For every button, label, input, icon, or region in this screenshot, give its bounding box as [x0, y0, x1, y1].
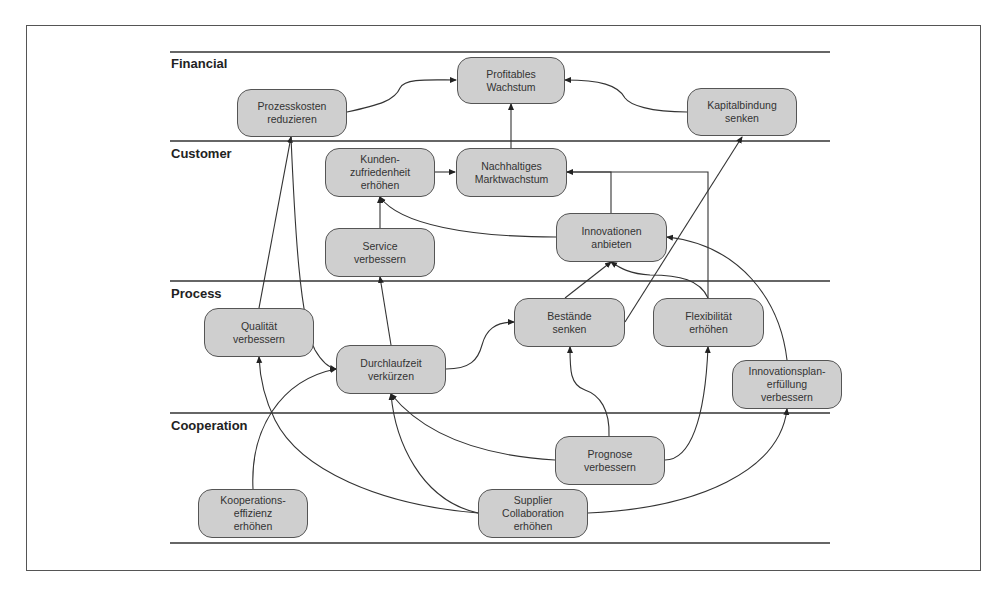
node-text: erhöhen — [350, 179, 410, 192]
lane-label-process: Process — [171, 286, 222, 301]
node-text: Durchlaufzeit — [360, 357, 421, 370]
node-flexibilitaet-erhoehen: Flexibilitäterhöhen — [653, 298, 764, 347]
lane-label-financial: Financial — [171, 56, 227, 71]
node-text: verbessern — [233, 333, 285, 346]
node-text: verbessern — [748, 391, 825, 404]
node-innovationsplanerfuellung-verbessern: Innovationsplan-erfüllungverbessern — [732, 360, 842, 409]
node-text: Innovationsplan- — [748, 365, 825, 378]
node-text: effizienz — [220, 507, 285, 520]
node-nachhaltiges-marktwachstum: NachhaltigesMarktwachstum — [456, 148, 567, 197]
node-text: reduzieren — [258, 113, 327, 126]
node-text: Supplier — [502, 494, 564, 507]
node-service-verbessern: Serviceverbessern — [325, 228, 435, 277]
node-text: Flexibilität — [685, 310, 732, 323]
node-text: Profitables — [486, 68, 536, 81]
lane-label-customer: Customer — [171, 146, 232, 161]
node-text: verkürzen — [360, 370, 421, 383]
node-text: Wachstum — [486, 81, 536, 94]
node-bestaende-senken: Beständesenken — [514, 298, 625, 347]
node-prozesskosten-reduzieren: Prozesskostenreduzieren — [237, 89, 347, 137]
node-text: senken — [707, 112, 776, 125]
node-text: Innovationen — [581, 225, 641, 238]
node-text: erhöhen — [220, 520, 285, 533]
lane-label-cooperation: Cooperation — [171, 418, 248, 433]
node-text: Service — [354, 240, 406, 253]
node-innovationen-anbieten: Innovationenanbieten — [556, 213, 667, 262]
node-text: erfüllung — [748, 378, 825, 391]
node-text: Collaboration — [502, 507, 564, 520]
node-kundenzufriedenheit-erhoehen: Kunden-zufriedenheiterhöhen — [325, 148, 435, 197]
node-text: erhöhen — [685, 323, 732, 336]
node-qualitaet-verbessern: Qualitätverbessern — [204, 308, 314, 357]
node-text: Qualität — [233, 320, 285, 333]
node-text: senken — [547, 323, 591, 336]
node-profitables-wachstum: ProfitablesWachstum — [457, 57, 565, 104]
node-text: Kooperations- — [220, 494, 285, 507]
node-text: Kunden- — [350, 153, 410, 166]
node-kooperationseffizienz-erhoehen: Kooperations-effizienzerhöhen — [198, 489, 308, 538]
node-text: Prozesskosten — [258, 100, 327, 113]
node-text: Kapitalbindung — [707, 99, 776, 112]
node-text: Marktwachstum — [475, 173, 549, 186]
node-kapitalbindung-senken: Kapitalbindungsenken — [687, 88, 797, 136]
node-supplier-collaboration-erhoehen: SupplierCollaborationerhöhen — [478, 489, 588, 538]
node-prognose-verbessern: Prognoseverbessern — [555, 436, 665, 485]
node-durchlaufzeit-verkuerzen: Durchlaufzeitverkürzen — [336, 345, 446, 394]
node-text: anbieten — [581, 238, 641, 251]
node-text: zufriedenheit — [350, 166, 410, 179]
node-text: verbessern — [584, 461, 636, 474]
node-text: Prognose — [584, 448, 636, 461]
node-text: Bestände — [547, 310, 591, 323]
node-text: verbessern — [354, 253, 406, 266]
node-text: erhöhen — [502, 520, 564, 533]
edges — [253, 80, 787, 513]
node-text: Nachhaltiges — [475, 160, 549, 173]
